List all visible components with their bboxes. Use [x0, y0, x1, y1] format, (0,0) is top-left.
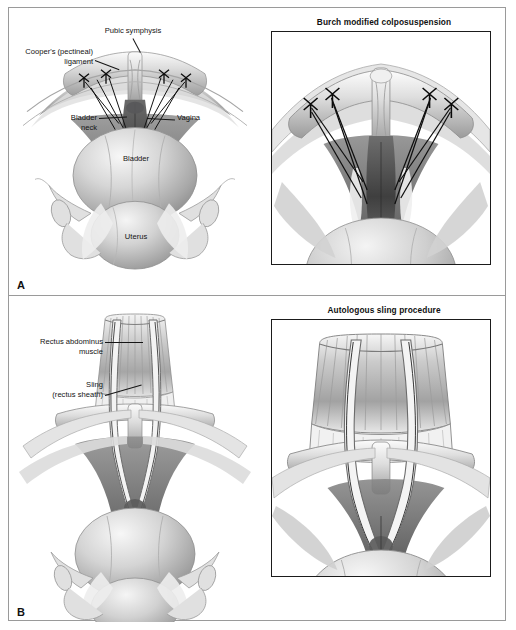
figure-frame: A	[8, 7, 506, 621]
leader-rectus-abdominus-muscle	[105, 342, 143, 343]
panel-b-left-illustration: Rectus abdominus muscle Sling (rectus sh…	[9, 296, 261, 622]
burch-colposuspension-art	[272, 32, 490, 264]
panel-a-left-illustration: Pubic symphysis Cooper's (pectineal) lig…	[9, 8, 261, 295]
burch-detail-box	[271, 31, 491, 265]
panel-a: A	[9, 8, 505, 296]
burch-procedure-title: Burch modified colposuspension	[261, 17, 507, 27]
autologous-sling-art	[272, 320, 490, 576]
label-sling-rectus-sheath: Sling (rectus sheath)	[15, 380, 103, 399]
label-uterus: Uterus	[109, 232, 163, 242]
label-pubic-symphysis: Pubic symphysis	[87, 26, 179, 36]
sling-procedure-title: Autologous sling procedure	[261, 305, 507, 315]
panel-b: B	[9, 296, 505, 622]
label-coopers-ligament: Cooper's (pectineal) ligament	[11, 47, 93, 66]
label-bladder: Bladder	[109, 154, 163, 164]
panel-a-right-illustration: Burch modified colposuspension	[261, 8, 507, 295]
label-bladder-neck: Bladder neck	[53, 113, 97, 132]
sling-detail-box	[271, 319, 491, 577]
label-vagina: Vagina	[177, 113, 227, 123]
label-rectus-abdominus-muscle: Rectus abdominus muscle	[15, 337, 103, 356]
panel-b-right-illustration: Autologous sling procedure	[261, 296, 507, 622]
